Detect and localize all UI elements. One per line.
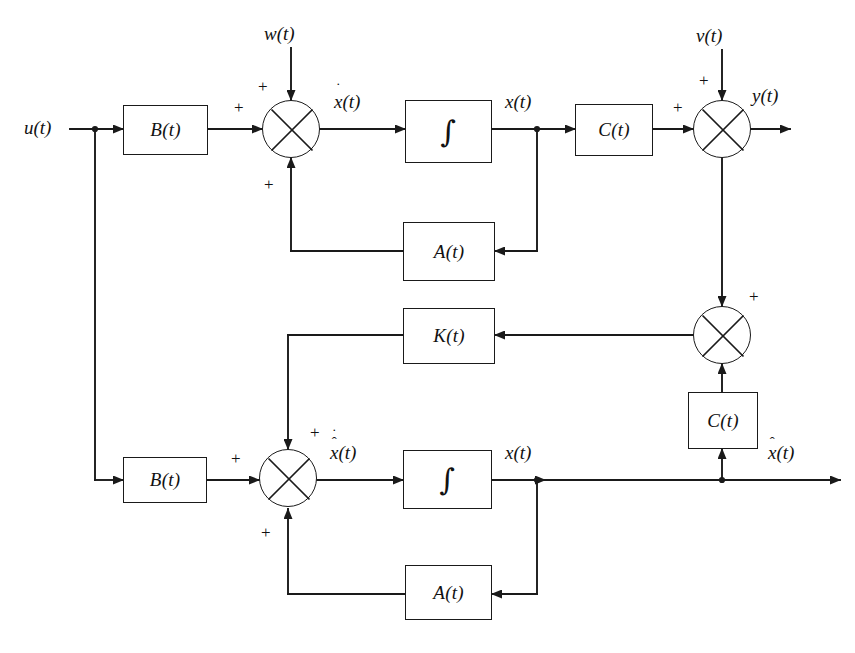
xdot-base: x bbox=[334, 91, 342, 112]
label-xhatdot-observer: ˙ˆx(t) bbox=[330, 443, 356, 462]
label-v-noise: v(t) bbox=[696, 26, 722, 45]
block-c-plant-label: C(t) bbox=[598, 119, 629, 141]
block-k-gain-label: K(t) bbox=[433, 325, 464, 347]
block-a-plant-label: A(t) bbox=[434, 241, 464, 263]
summing-junction-plant[interactable] bbox=[262, 100, 320, 158]
block-a-observer[interactable]: A(t) bbox=[405, 565, 492, 620]
dot-accent: ˙ bbox=[330, 427, 338, 442]
block-diagram-canvas: B(t) ∫ C(t) A(t) K(t) C(t) B(t) ∫ A(t) bbox=[0, 0, 855, 653]
block-b-observer-label: B(t) bbox=[150, 469, 180, 491]
block-integrator-plant[interactable]: ∫ bbox=[405, 100, 492, 163]
xdot-glyph: ˙x bbox=[334, 92, 342, 111]
xhatdot-arg: (t) bbox=[338, 442, 356, 463]
block-b-plant-label: B(t) bbox=[150, 119, 180, 141]
sign-plant-top: + bbox=[258, 78, 268, 95]
summing-cross-innovation bbox=[694, 307, 752, 365]
label-x-plant: x(t) bbox=[505, 92, 531, 111]
label-xdot-plant: ˙x(t) bbox=[334, 92, 360, 111]
label-y-output: y(t) bbox=[752, 86, 778, 105]
summing-cross-observer bbox=[260, 450, 318, 508]
block-b-plant[interactable]: B(t) bbox=[123, 105, 208, 155]
label-xhat-output: ˆx(t) bbox=[768, 443, 794, 462]
summing-junction-output[interactable] bbox=[693, 100, 751, 158]
label-w-noise: w(t) bbox=[264, 24, 295, 43]
label-u-input: u(t) bbox=[24, 118, 51, 137]
xhat-glyph: ˆx bbox=[768, 443, 776, 462]
block-a-plant[interactable]: A(t) bbox=[403, 222, 495, 281]
block-integrator-plant-label: ∫ bbox=[441, 114, 457, 149]
summing-junction-observer[interactable] bbox=[259, 449, 317, 507]
xhat-base: x bbox=[768, 442, 776, 463]
junction-dot-xhat bbox=[719, 477, 725, 483]
block-b-observer[interactable]: B(t) bbox=[123, 457, 207, 503]
sign-plant-bottom: + bbox=[264, 176, 274, 193]
sign-observer-top: + bbox=[310, 424, 320, 441]
summing-cross-output bbox=[694, 101, 752, 159]
block-c-observer-label: C(t) bbox=[707, 410, 738, 432]
summing-junction-innovation[interactable] bbox=[693, 306, 751, 364]
xhatdot-glyph: ˙ˆx bbox=[330, 443, 338, 462]
sign-plant-left: + bbox=[234, 99, 244, 116]
sign-output-top: + bbox=[699, 72, 709, 89]
block-k-gain[interactable]: K(t) bbox=[403, 308, 495, 364]
junction-dot-x-obs bbox=[534, 477, 540, 483]
label-x-observer: x(t) bbox=[505, 443, 531, 462]
xdot-arg: (t) bbox=[342, 91, 360, 112]
block-c-observer[interactable]: C(t) bbox=[688, 392, 758, 449]
sign-innovation-top: + bbox=[749, 288, 759, 305]
sign-observer-bottom: + bbox=[261, 524, 271, 541]
junction-dot-u bbox=[92, 126, 98, 132]
block-integrator-observer[interactable]: ∫ bbox=[403, 450, 492, 509]
summing-cross-plant bbox=[263, 101, 321, 159]
junction-dot-x-plant bbox=[534, 126, 540, 132]
block-a-observer-label: A(t) bbox=[433, 582, 463, 604]
sign-output-left: + bbox=[673, 99, 683, 116]
block-integrator-observer-label: ∫ bbox=[440, 462, 456, 497]
xhat-arg: (t) bbox=[776, 442, 794, 463]
block-c-plant[interactable]: C(t) bbox=[575, 104, 653, 156]
sign-observer-left: + bbox=[231, 450, 241, 467]
xhatdot-base: x bbox=[330, 442, 338, 463]
